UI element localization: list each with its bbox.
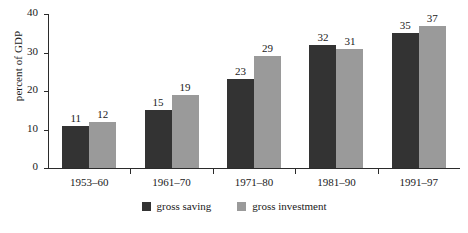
x-category-label: 1953–60 (48, 176, 130, 188)
bar-rect (172, 95, 199, 168)
legend-label: gross saving (157, 200, 212, 212)
bar-group: 35371991–97 (378, 14, 460, 168)
legend-swatch-icon (142, 202, 151, 211)
y-tick-label: 0 (33, 160, 39, 172)
bar-value-label: 19 (180, 81, 191, 93)
bar-value-label: 37 (427, 12, 438, 24)
bar-value-label: 11 (70, 112, 81, 124)
x-axis-line (48, 168, 460, 169)
bar-saving: 35 (392, 33, 419, 168)
bar-value-label: 15 (153, 96, 164, 108)
bar-saving: 23 (227, 79, 254, 168)
bar-value-label: 29 (262, 42, 273, 54)
bar-group: 32311981–90 (295, 14, 377, 168)
y-tick-label: 30 (27, 45, 38, 57)
x-category-label: 1961–70 (130, 176, 212, 188)
legend-item-gross-saving: gross saving (142, 200, 212, 212)
x-tick (295, 169, 296, 174)
x-category-label: 1981–90 (295, 176, 377, 188)
bar-rect (89, 122, 116, 168)
x-tick (130, 169, 131, 174)
bar-investment: 29 (254, 56, 281, 168)
bar-value-label: 12 (97, 108, 108, 120)
bar-value-label: 35 (400, 19, 411, 31)
x-tick (213, 169, 214, 174)
bar-saving: 11 (62, 126, 89, 168)
bar-saving: 15 (145, 110, 172, 168)
x-tick (378, 169, 379, 174)
bar-rect (62, 126, 89, 168)
legend-swatch-icon (237, 202, 246, 211)
bar-rect (392, 33, 419, 168)
legend-item-gross-investment: gross investment (237, 200, 326, 212)
bar-rect (336, 49, 363, 168)
chart-legend: gross savinggross investment (0, 200, 468, 212)
y-tick-label: 10 (27, 122, 38, 134)
bar-group: 23291971–80 (213, 14, 295, 168)
legend-label: gross investment (252, 200, 326, 212)
bar-investment: 37 (419, 26, 446, 168)
bar-group: 15191961–70 (130, 14, 212, 168)
bar-rect (254, 56, 281, 168)
bar-saving: 32 (309, 45, 336, 168)
x-category-label: 1991–97 (378, 176, 460, 188)
bar-value-label: 31 (344, 35, 355, 47)
bar-rect (419, 26, 446, 168)
x-category-label: 1971–80 (213, 176, 295, 188)
bar-value-label: 23 (235, 65, 246, 77)
y-tick-0: 0 (44, 168, 49, 169)
bar-investment: 31 (336, 49, 363, 168)
bar-rect (309, 45, 336, 168)
bar-chart: percent of GDP 010203040 11121953–601519… (0, 0, 468, 233)
plot-area: 010203040 11121953–6015191961–7023291971… (48, 14, 460, 169)
bar-investment: 19 (172, 95, 199, 168)
bar-investment: 12 (89, 122, 116, 168)
y-axis-title: percent of GDP (12, 0, 24, 136)
bar-value-label: 32 (317, 31, 328, 43)
bar-group: 11121953–60 (48, 14, 130, 168)
bar-rect (227, 79, 254, 168)
y-tick-label: 20 (27, 83, 38, 95)
bar-rect (145, 110, 172, 168)
y-tick-label: 40 (27, 6, 38, 18)
